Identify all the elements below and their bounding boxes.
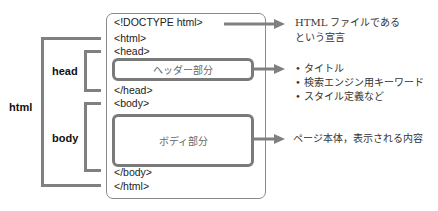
body-annotation: ページ本体，表示される内容: [293, 132, 423, 146]
body-arrow-icon: [254, 134, 285, 144]
header-annotation-item: • タイトル: [295, 62, 344, 76]
arrows-layer: [0, 0, 438, 211]
doctype-annotation-line-1: HTML ファイルである: [295, 16, 400, 30]
header-annotation-item: • スタイル定義など: [295, 90, 384, 104]
doctype-annotation-line-2: という宣言: [295, 31, 345, 45]
header-annotation-item: • 検索エンジン用キーワード: [295, 76, 424, 90]
doctype-arrow-icon: [224, 19, 285, 29]
header-arrow-icon: [254, 64, 285, 74]
